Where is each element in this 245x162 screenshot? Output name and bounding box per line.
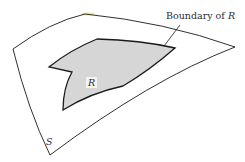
surface-s-label: S bbox=[46, 137, 53, 147]
region-r-label: R bbox=[88, 78, 95, 88]
region-r bbox=[49, 39, 175, 110]
boundary-label-prefix: Boundary of bbox=[166, 10, 228, 21]
boundary-label-variable: R bbox=[228, 10, 235, 21]
boundary-of-r-label: Boundary of R bbox=[166, 11, 235, 21]
surface-diagram bbox=[0, 0, 245, 162]
